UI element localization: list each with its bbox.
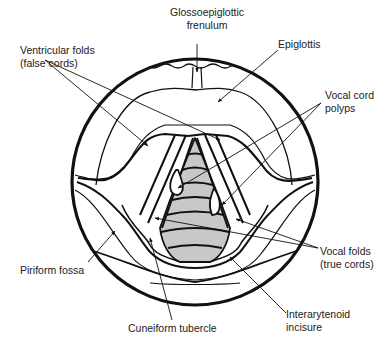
label-glossoepiglottic-frenulum: Glossoepiglottic frenulum	[170, 6, 244, 31]
leader-polyp-2	[222, 103, 321, 205]
label-vocal-cord-polyps: Vocal cord polyps	[325, 89, 374, 114]
leader-ventricular-1	[45, 60, 148, 146]
pharyngeal-wall-2	[150, 283, 240, 285]
label-piriform-fossa: Piriform fossa	[20, 264, 84, 277]
leader-ventricular-2	[45, 60, 220, 140]
label-vocal-folds: Vocal folds (true cords)	[320, 245, 374, 270]
label-interarytenoid-incisure: Interarytenoid incisure	[286, 308, 350, 333]
label-cuneiform-tubercle: Cuneiform tubercle	[128, 322, 217, 335]
label-epiglottis: Epiglottis	[278, 38, 321, 51]
leader-epiglottis	[218, 50, 278, 102]
label-ventricular-folds: Ventricular folds (false cords)	[20, 44, 95, 69]
